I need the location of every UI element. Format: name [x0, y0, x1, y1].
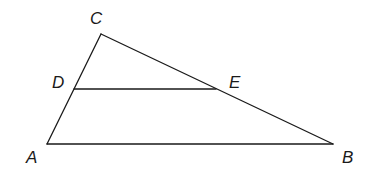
label-point-d: D — [52, 73, 64, 92]
label-point-c: C — [90, 9, 103, 28]
triangle-diagram: A B C D E — [0, 0, 368, 172]
label-point-e: E — [229, 73, 241, 92]
label-point-b: B — [342, 148, 353, 167]
label-point-a: A — [25, 148, 37, 167]
